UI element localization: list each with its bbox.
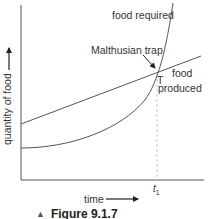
caption-text: Figure 9.1.7 [51, 207, 118, 219]
caption-triangle-icon: ▲ [36, 209, 45, 219]
t1-tick-label: t1 [153, 184, 160, 196]
figure-caption: ▲Figure 9.1.7 [36, 208, 118, 219]
food-produced-label-line1: food [172, 68, 192, 79]
diagram-canvas [0, 0, 214, 219]
y-axis-label: quantity of food [2, 73, 13, 145]
t1-tick-subscript: 1 [156, 189, 160, 196]
food-required-label: food required [112, 10, 174, 21]
malthusian-trap-label: Malthusian trap [91, 45, 163, 56]
food-produced-label-line2: produced [158, 83, 202, 94]
x-axis-label: time [84, 194, 104, 205]
trap-arrow [143, 55, 155, 68]
malthusian-trap-diagram: food required Malthusian trap T food pro… [0, 0, 214, 219]
